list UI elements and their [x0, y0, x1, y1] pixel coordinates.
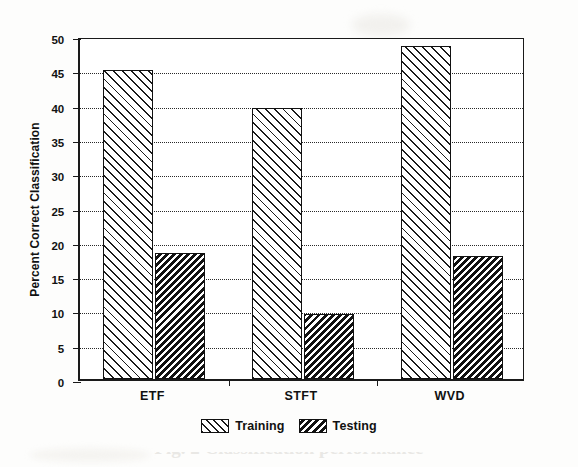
x-axis-tick: [377, 379, 378, 386]
figure-container: Percent Correct Classification 051015202…: [0, 0, 578, 467]
bar-wvd-training: [401, 46, 451, 379]
y-axis-tick: 20: [73, 245, 81, 246]
y-axis-tick-label: 50: [52, 34, 64, 46]
y-axis-tick-label: 45: [52, 68, 64, 80]
y-axis-tick: 30: [73, 176, 81, 177]
plot-area: 05101520253035404550: [78, 38, 524, 381]
y-axis-tick-label: 40: [52, 103, 64, 115]
legend-swatch-testing: [299, 419, 327, 433]
y-axis-tick-label: 25: [52, 206, 64, 218]
legend-item-training: Training: [201, 419, 284, 433]
bar-etf-training: [103, 70, 153, 379]
y-axis-tick-label: 10: [52, 308, 64, 320]
bar-etf-testing: [155, 253, 205, 379]
y-axis-tick-label: 35: [52, 137, 64, 149]
legend-swatch-training: [201, 419, 229, 433]
y-axis-tick-label: 0: [58, 377, 64, 389]
x-axis-label-stft: STFT: [285, 389, 318, 403]
y-axis-tick: 40: [73, 108, 81, 109]
chart-legend: TrainingTesting: [0, 419, 578, 433]
y-axis-tick: 25: [73, 211, 81, 212]
y-axis-tick-label: 15: [52, 274, 64, 286]
y-axis-tick-label: 5: [58, 343, 64, 355]
y-axis-tick: 15: [73, 279, 81, 280]
figure-caption: Fig. 2 Classification performance: [0, 452, 578, 467]
bar-stft-training: [252, 108, 302, 379]
scan-artifact: [352, 14, 410, 36]
legend-label-testing: Testing: [333, 419, 377, 433]
y-axis-tick-label: 30: [52, 171, 64, 183]
x-axis-label-wvd: WVD: [434, 389, 464, 403]
bar-stft-testing: [304, 314, 354, 379]
x-axis-tick: [229, 379, 230, 386]
y-axis-tick: 35: [73, 142, 81, 143]
x-axis-label-etf: ETF: [140, 389, 165, 403]
bar-wvd-testing: [453, 256, 503, 379]
figure-caption-text: Fig. 2 Classification performance: [154, 452, 423, 459]
y-axis-tick-label: 20: [52, 240, 64, 252]
y-axis-tick: 45: [73, 73, 81, 74]
y-axis-tick: 5: [73, 348, 81, 349]
legend-item-testing: Testing: [299, 419, 377, 433]
legend-label-training: Training: [235, 419, 284, 433]
y-axis-tick: 10: [73, 313, 81, 314]
y-axis-title: Percent Correct Classification: [26, 38, 44, 381]
y-axis-tick: 50: [73, 39, 81, 40]
y-axis-tick: 0: [73, 382, 81, 383]
